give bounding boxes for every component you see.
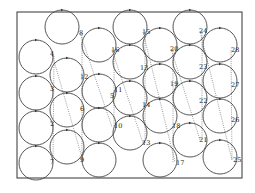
point-label: 13 [142,139,150,147]
direction-arrow-icon [98,27,101,29]
point-label: 15 [142,28,150,36]
direction-arrow-icon [159,27,162,29]
circle-outline [19,76,53,110]
circle-outline [203,140,237,174]
circle-c8 [50,129,84,164]
circle-c9 [82,27,116,62]
direction-arrow-icon [61,9,64,11]
direction-arrow-icon [189,122,192,124]
circle-c1 [19,39,53,74]
direction-arrow-icon [219,63,222,65]
point-label: 9 [80,156,84,164]
circle-outline [45,10,79,44]
circle-outline [82,143,116,177]
point-label: 28 [231,46,239,54]
point-label: 14 [142,101,150,109]
circle-outline [19,40,53,74]
point-label: 7 [50,158,54,166]
direction-arrow-icon [159,142,162,144]
circle-c3 [19,110,53,145]
direction-arrow-icon [98,73,101,75]
circle-c13 [113,9,147,44]
direction-arrow-icon [66,57,69,59]
point-label: 6 [80,105,84,113]
point-label: 13 [140,64,148,72]
circle-packing-diagram: 8432712691651110151314132019181724232221… [0,0,255,193]
point-label: 18 [172,122,180,130]
point-label: 2 [50,120,54,128]
circle-outline [82,108,116,142]
circle-c12 [82,142,116,177]
circle-outline [143,143,177,177]
circle-c6 [50,57,84,92]
circle-c20 [143,142,177,177]
dotted-line [52,54,83,161]
direction-arrow-icon [189,80,192,82]
point-label: 26 [231,116,239,124]
point-label: 22 [199,97,207,105]
circle-c5 [45,9,79,44]
direction-arrow-icon [129,80,132,82]
dotted-line [231,50,232,160]
direction-arrow-icon [98,107,101,109]
direction-arrow-icon [159,63,162,65]
dotted-line [53,56,54,160]
point-label: 8 [79,29,83,37]
direction-arrow-icon [219,139,222,141]
direction-arrow-icon [189,9,192,11]
direction-arrow-icon [129,9,132,11]
tangent-point-labels: 8432712691651110151314132019181724232221… [50,27,241,167]
circle-c2 [19,75,53,110]
point-label: 3 [50,85,54,93]
point-label: 10 [114,122,122,130]
circle-c11 [82,107,116,142]
direction-arrow-icon [219,27,222,29]
point-label: 25 [233,156,241,164]
circle-outline [203,28,237,62]
point-label: 24 [199,27,207,35]
point-label: 21 [199,136,207,144]
point-label: 23 [199,63,207,71]
circle-outline [19,146,53,180]
point-label: 12 [80,73,88,81]
direction-arrow-icon [35,39,38,41]
circle-outline [50,58,84,92]
point-label: 17 [176,159,184,167]
point-label: 27 [231,81,239,89]
point-label: 11 [114,86,122,94]
point-label: 20 [170,45,178,53]
circle-outline [113,10,147,44]
point-label: 4 [50,50,54,58]
point-label: 19 [170,80,178,88]
circle-outline [82,28,116,62]
circle-outline [50,93,84,127]
point-label: 16 [111,46,119,54]
circle-c4 [19,145,53,180]
circle-outline [19,111,53,145]
direction-arrow-icon [35,75,38,77]
circle-c25 [203,27,237,62]
circle-c7 [50,92,84,127]
direction-arrow-icon [66,129,69,131]
